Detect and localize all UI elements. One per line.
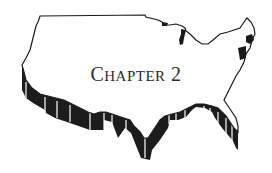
heading-word: HAPTER	[104, 68, 165, 84]
chapter-heading: CHAPTER 2	[0, 62, 272, 88]
heading-initial: C	[90, 63, 104, 85]
heading-number: 2	[171, 63, 182, 85]
